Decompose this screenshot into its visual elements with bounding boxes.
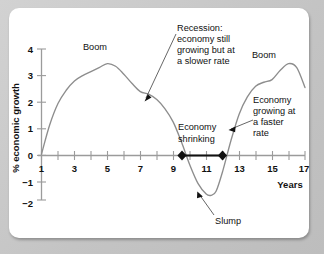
recession-label-line3: growing but at bbox=[177, 45, 235, 55]
recession-label-line4: a slower rate bbox=[177, 56, 230, 66]
x-tick-label-15: 15 bbox=[267, 163, 278, 174]
y-tick-label-1: 1 bbox=[28, 123, 34, 134]
y-tick-label-4: 4 bbox=[28, 44, 34, 55]
recession-label-line2: economy still bbox=[177, 34, 230, 44]
slump-leader-line bbox=[199, 194, 214, 215]
x-tick-label-17: 17 bbox=[299, 163, 310, 174]
faster-rate-label-line1: Economy bbox=[253, 95, 292, 105]
y-axis-title: % economic growth bbox=[10, 83, 21, 173]
economy-shrinking-label-line2: shrinking bbox=[178, 134, 215, 144]
y-tick-label-2: 2 bbox=[28, 97, 33, 108]
faster-rate-label-line3: a faster bbox=[253, 117, 284, 127]
faster-rate-label-line4: rate bbox=[253, 128, 269, 138]
boom-right-label: Boom bbox=[252, 50, 276, 60]
x-tick-label-7: 7 bbox=[138, 163, 143, 174]
x-tick-label-1: 1 bbox=[39, 163, 45, 174]
x-tick-label-9: 9 bbox=[171, 163, 176, 174]
economy-shrinking-label-line1: Economy bbox=[178, 122, 217, 132]
x-tick-label-13: 13 bbox=[234, 163, 245, 174]
recession-leader-line bbox=[146, 34, 176, 98]
x-tick-label-11: 11 bbox=[201, 163, 212, 174]
y-tick-label-minus-2: −2 bbox=[22, 198, 33, 209]
y-tick-label-3: 3 bbox=[28, 70, 33, 81]
x-axis-title: Years bbox=[277, 179, 302, 190]
figure-root: 4 3 2 1 0 −1 −2 1 3 5 bbox=[0, 0, 324, 254]
recession-label-line1: Recession: bbox=[177, 23, 222, 33]
boom-left-label: Boom bbox=[83, 42, 107, 52]
faster-rate-label-line2: growing at bbox=[253, 106, 296, 116]
slump-label: Slump bbox=[215, 216, 241, 226]
slump-arrowhead bbox=[197, 192, 203, 199]
economic-cycle-chart: 4 3 2 1 0 −1 −2 1 3 5 bbox=[0, 0, 324, 254]
y-tick-label-minus-1: −1 bbox=[22, 177, 34, 188]
faster-rate-arrowhead bbox=[229, 126, 236, 132]
y-tick-label-0: 0 bbox=[28, 150, 33, 161]
x-tick-label-5: 5 bbox=[105, 163, 111, 174]
x-tick-label-3: 3 bbox=[72, 163, 77, 174]
